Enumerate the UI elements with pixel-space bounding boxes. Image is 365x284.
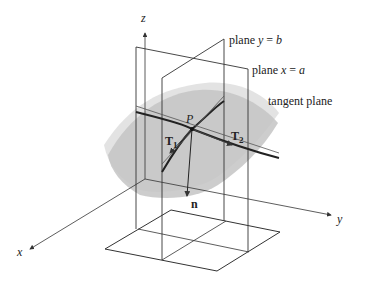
tangent-plane-diagram: z y x plane y = b plane x = a tangent pl… [0, 0, 365, 284]
x-label: x [16, 245, 23, 259]
plane-x-label: plane x = a [252, 63, 305, 77]
y-label: y [336, 212, 343, 226]
point-p [190, 127, 194, 131]
plane-y-label: plane y = b [229, 33, 282, 47]
p-label: P [185, 112, 194, 126]
n-label: n [191, 197, 198, 211]
x-axis [30, 179, 145, 249]
z-label: z [140, 11, 146, 25]
tangent-plane-label: tangent plane [268, 94, 332, 108]
